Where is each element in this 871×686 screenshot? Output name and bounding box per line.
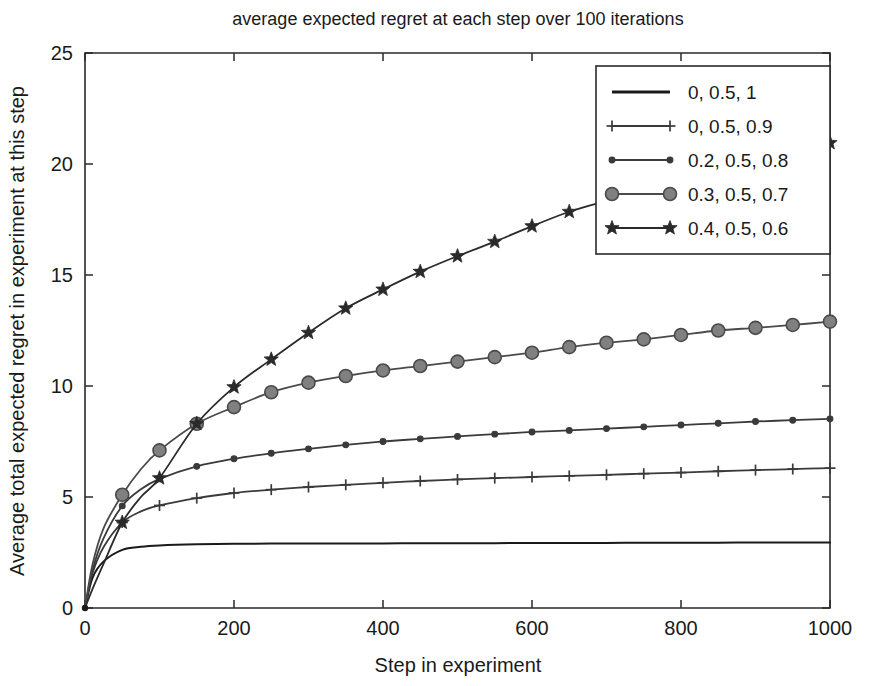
series-marker-circle xyxy=(563,341,576,354)
origin-marker xyxy=(82,605,88,611)
series-marker-dot xyxy=(604,426,610,432)
series-marker-dot xyxy=(678,422,684,428)
series-marker-circle xyxy=(600,336,613,349)
series-marker-dot xyxy=(455,433,461,439)
series-marker-dot xyxy=(306,446,312,452)
series-marker-circle xyxy=(302,376,315,389)
x-tick-label: 600 xyxy=(515,617,548,639)
series-marker-dot xyxy=(529,429,535,435)
series-marker-circle xyxy=(377,364,390,377)
y-axis-title: Average total expected regret in experim… xyxy=(6,86,28,576)
series-marker-dot xyxy=(119,503,125,509)
legend-marker-circle xyxy=(664,188,677,201)
series-marker-circle xyxy=(526,346,539,359)
legend-label: 0.2, 0.5, 0.8 xyxy=(688,150,788,171)
series-marker-dot xyxy=(231,456,237,462)
series-marker-dot xyxy=(566,428,572,434)
y-tick-label: 25 xyxy=(51,42,73,64)
series-marker-circle xyxy=(451,355,464,368)
chart-figure: average expected regret at each step ove… xyxy=(0,0,871,686)
series-marker-circle xyxy=(824,315,837,328)
y-tick-label: 5 xyxy=(62,486,73,508)
series-marker-circle xyxy=(488,351,501,364)
series-marker-circle xyxy=(228,401,241,414)
series-marker-dot xyxy=(343,442,349,448)
chart-legend: 0, 0.5, 10, 0.5, 0.90.2, 0.5, 0.80.3, 0.… xyxy=(596,66,830,254)
series-marker-dot xyxy=(380,439,386,445)
series-marker-circle xyxy=(637,333,650,346)
x-axis-title: Step in experiment xyxy=(375,654,542,676)
series-marker-circle xyxy=(786,318,799,331)
series-marker-circle xyxy=(339,370,352,383)
legend-marker-dot xyxy=(609,157,615,163)
series-marker-circle xyxy=(675,328,688,341)
y-tick-label: 10 xyxy=(51,375,73,397)
series-marker-dot xyxy=(753,419,759,425)
legend-marker-dot xyxy=(667,157,673,163)
x-tick-label: 200 xyxy=(217,617,250,639)
y-tick-label: 20 xyxy=(51,153,73,175)
legend-label: 0, 0.5, 1 xyxy=(688,82,757,103)
series-marker-circle xyxy=(265,386,278,399)
legend-label: 0.4, 0.5, 0.6 xyxy=(688,218,788,239)
series-marker-dot xyxy=(492,431,498,437)
chart-title: average expected regret at each step ove… xyxy=(232,9,683,29)
x-tick-label: 1000 xyxy=(808,617,853,639)
series-marker-circle xyxy=(116,488,129,501)
chart-canvas: average expected regret at each step ove… xyxy=(0,0,871,686)
series-marker-circle xyxy=(414,360,427,373)
series-marker-dot xyxy=(194,463,200,469)
legend-marker-circle xyxy=(606,188,619,201)
series-marker-circle xyxy=(749,321,762,334)
series-marker-dot xyxy=(417,436,423,442)
y-tick-label: 15 xyxy=(51,264,73,286)
legend-label: 0.3, 0.5, 0.7 xyxy=(688,184,788,205)
series-marker-dot xyxy=(641,424,647,430)
series-marker-dot xyxy=(715,420,721,426)
x-tick-label: 800 xyxy=(664,617,697,639)
x-tick-label: 400 xyxy=(366,617,399,639)
series-marker-dot xyxy=(268,450,274,456)
series-marker-dot xyxy=(790,417,796,423)
series-marker-circle xyxy=(153,444,166,457)
series-marker-circle xyxy=(712,324,725,337)
series-marker-dot xyxy=(827,416,833,422)
legend-label: 0, 0.5, 0.9 xyxy=(688,116,773,137)
y-tick-label: 0 xyxy=(62,597,73,619)
x-tick-label: 0 xyxy=(79,617,90,639)
